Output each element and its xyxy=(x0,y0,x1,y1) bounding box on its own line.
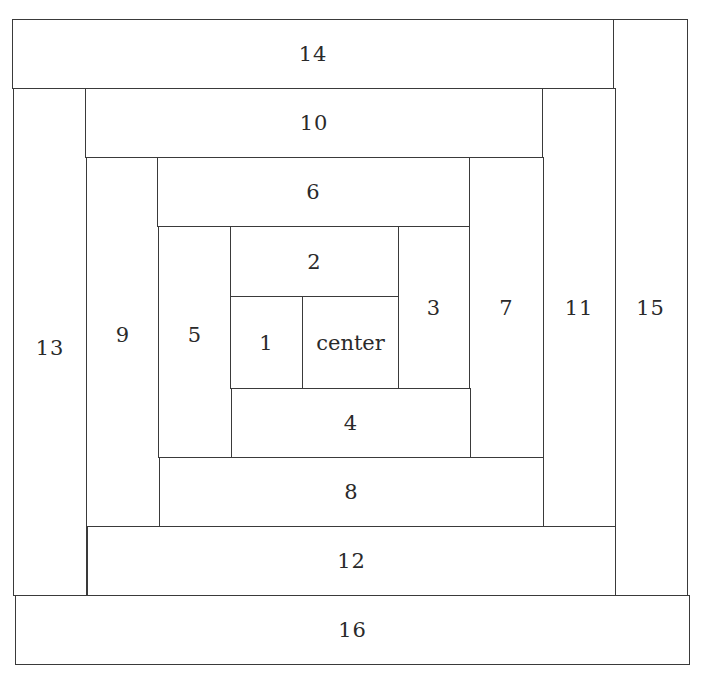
piece-13-label: 13 xyxy=(36,336,65,360)
piece-8: 8 xyxy=(159,457,544,527)
piece-16: 16 xyxy=(15,595,690,665)
piece-15-label: 15 xyxy=(636,296,665,320)
piece-1: 1 xyxy=(230,296,303,389)
log-cabin-quilt-diagram: 14 15 13 16 10 11 9 12 6 7 5 8 2 3 1 cen… xyxy=(0,0,701,681)
piece-3-label: 3 xyxy=(427,296,441,320)
piece-2: 2 xyxy=(230,226,399,297)
piece-5-label: 5 xyxy=(188,323,202,347)
piece-11-label: 11 xyxy=(565,296,594,320)
piece-1-label: 1 xyxy=(259,331,273,355)
piece-center-label: center xyxy=(316,331,385,355)
piece-4-label: 4 xyxy=(344,411,358,435)
piece-9: 9 xyxy=(86,157,160,527)
piece-12: 12 xyxy=(87,526,616,596)
piece-16-label: 16 xyxy=(338,618,367,642)
piece-2-label: 2 xyxy=(307,250,321,274)
piece-6: 6 xyxy=(157,157,470,227)
piece-3: 3 xyxy=(398,226,470,389)
piece-6-label: 6 xyxy=(306,180,320,204)
piece-10: 10 xyxy=(85,88,543,158)
piece-14: 14 xyxy=(12,19,614,89)
piece-14-label: 14 xyxy=(299,42,328,66)
piece-5: 5 xyxy=(158,226,232,458)
piece-4: 4 xyxy=(231,388,471,458)
piece-8-label: 8 xyxy=(344,480,358,504)
piece-10-label: 10 xyxy=(300,111,329,135)
piece-12-label: 12 xyxy=(337,549,366,573)
piece-13: 13 xyxy=(13,88,87,596)
piece-9-label: 9 xyxy=(116,323,130,347)
piece-center: center xyxy=(302,296,399,389)
piece-7-label: 7 xyxy=(499,296,513,320)
piece-11: 11 xyxy=(542,88,616,527)
piece-15: 15 xyxy=(613,19,688,596)
piece-7: 7 xyxy=(469,157,544,458)
